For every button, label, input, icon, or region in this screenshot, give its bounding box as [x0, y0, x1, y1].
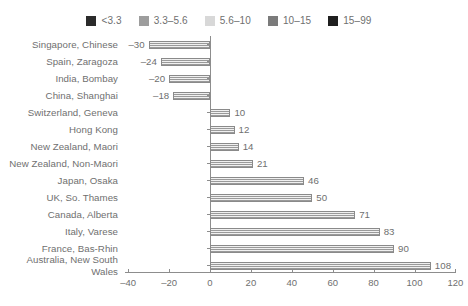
bar [210, 245, 394, 253]
x-axis-tick-label: –20 [149, 277, 189, 288]
bar [210, 160, 253, 168]
chart-row: Japan, Osaka46 [0, 172, 458, 189]
chart-row: China, Shanghai–18 [0, 87, 458, 104]
y-axis-tick [207, 248, 211, 249]
bar-value-label: 90 [398, 240, 440, 257]
bar-value-label: –30 [103, 36, 145, 53]
category-label: Italy, Varese [0, 223, 118, 240]
bar [210, 177, 304, 185]
chart-row: UK, So. Thames50 [0, 189, 458, 206]
bar [210, 211, 355, 219]
bar [210, 262, 431, 270]
bar-value-label: 71 [359, 206, 401, 223]
bar [169, 75, 210, 83]
bar-value-label: 50 [316, 189, 358, 206]
y-axis-tick [207, 61, 211, 62]
y-axis-tick [207, 129, 211, 130]
x-axis-tick-label: 120 [435, 277, 468, 288]
category-label: China, Shanghai [0, 87, 118, 104]
bar [210, 143, 239, 151]
category-label: UK, So. Thames [0, 189, 118, 206]
chart-row: Hong Kong12 [0, 121, 458, 138]
x-axis-tick-label: 0 [190, 277, 230, 288]
y-axis-tick [207, 180, 211, 181]
bar-value-label: –24 [115, 53, 157, 70]
category-label: New Zealand, Non-Maori [0, 155, 118, 172]
y-axis-tick [207, 265, 211, 266]
y-axis-tick [207, 197, 211, 198]
x-axis-tick-label: 80 [354, 277, 394, 288]
x-axis-tick-label: –40 [108, 277, 148, 288]
y-axis-tick [207, 214, 211, 215]
y-axis-tick [207, 231, 211, 232]
bar [161, 58, 210, 66]
chart-row: Italy, Varese83 [0, 223, 458, 240]
x-axis-tick-label: 40 [272, 277, 312, 288]
category-label: New Zealand, Maori [0, 138, 118, 155]
chart-row: Singapore, Chinese–30 [0, 36, 458, 53]
bar [210, 126, 235, 134]
bar [210, 228, 380, 236]
bar-value-label: 83 [384, 223, 426, 240]
chart-row: New Zealand, Maori14 [0, 138, 458, 155]
y-axis-tick [207, 95, 211, 96]
x-axis-tick-label: 100 [395, 277, 435, 288]
category-label: Japan, Osaka [0, 172, 118, 189]
category-label: Hong Kong [0, 121, 118, 138]
bar-value-label: 21 [257, 155, 299, 172]
bar-value-label: 46 [308, 172, 350, 189]
chart-row: Spain, Zaragoza–24 [0, 53, 458, 70]
category-label: Switzerland, Geneva [0, 104, 118, 121]
y-axis-tick [207, 78, 211, 79]
bar [149, 41, 210, 49]
bar [210, 109, 230, 117]
chart-row: New Zealand, Non-Maori21 [0, 155, 458, 172]
category-label: Spain, Zaragoza [0, 53, 118, 70]
bar [173, 92, 210, 100]
x-axis-tick-label: 20 [231, 277, 271, 288]
category-label: Australia, New South Wales [0, 254, 118, 277]
category-label: Canada, Alberta [0, 206, 118, 223]
y-axis-tick [207, 44, 211, 45]
category-label: Singapore, Chinese [0, 36, 118, 53]
bar-value-label: 108 [435, 257, 468, 274]
chart-row: Canada, Alberta71 [0, 206, 458, 223]
chart-row: Switzerland, Geneva10 [0, 104, 458, 121]
category-label: India, Bombay [0, 70, 118, 87]
bar-value-label: –20 [123, 70, 165, 87]
bar-value-label: –18 [127, 87, 169, 104]
chart-row: Australia, New South Wales108 [0, 257, 458, 274]
y-axis-tick [207, 146, 211, 147]
y-axis-tick [207, 112, 211, 113]
y-axis-tick [207, 163, 211, 164]
x-axis-tick-label: 60 [313, 277, 353, 288]
bar-value-label: 14 [243, 138, 285, 155]
bar-value-label: 12 [239, 121, 281, 138]
bar-value-label: 10 [234, 104, 276, 121]
bar [210, 194, 312, 202]
chart-row: India, Bombay–20 [0, 70, 458, 87]
